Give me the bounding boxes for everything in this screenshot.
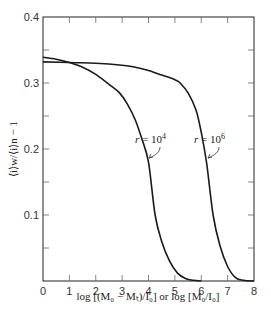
annotation-arrow (149, 147, 160, 158)
plot-frame (43, 17, 254, 281)
curve-r-1e4 (43, 57, 201, 281)
axis-ticks (43, 17, 254, 281)
y-tick-label: 0.3 (24, 77, 39, 89)
y-tick-label: 0.1 (24, 209, 39, 221)
x-tick-label: 8 (251, 285, 257, 297)
annotation-arrow (208, 147, 219, 158)
x-tick-label: 7 (225, 285, 231, 297)
line-chart: 012345678 0.10.20.30.4 r = 104r = 106 lo… (0, 0, 271, 321)
curve-annotations: r = 104r = 106 (135, 132, 225, 158)
x-tick-label: 0 (40, 285, 46, 297)
x-tick-label: 1 (66, 285, 72, 297)
y-tick-label: 0.4 (24, 11, 39, 23)
y-tick-label: 0.2 (24, 143, 39, 155)
curve-r-1e6 (43, 62, 254, 281)
x-axis-title: log [(M₀ − Mₜ)/I₀] or log [M₀/I₀] (76, 290, 219, 303)
data-curves (43, 57, 254, 281)
y-tick-labels: 0.10.20.30.4 (24, 11, 39, 221)
y-axis-title: ⟨i⟩w/⟨i⟩n − 1 (7, 121, 19, 177)
curve-label: r = 106 (194, 132, 225, 145)
curve-label: r = 104 (135, 132, 166, 145)
